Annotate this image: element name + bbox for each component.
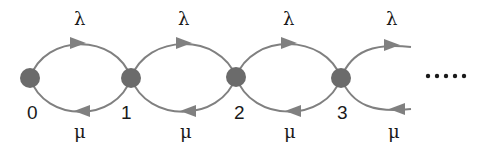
edge-0-to-1 [30,44,131,78]
state-label-3: 3 [337,102,348,123]
rate-label-lambda-3-next: λ [386,8,397,29]
state-node-0 [20,68,40,88]
arrow-left-icon [389,103,405,115]
state-label-0: 0 [27,102,38,123]
rate-label-mu-next-3: μ [388,121,400,142]
arrow-left-icon [74,105,90,117]
rate-label-lambda-2-3: λ [283,8,294,29]
ellipsis-dot [444,74,448,78]
edge-3-to-next [341,46,411,78]
forward-arrowheads [70,37,400,51]
ellipsis-dot [426,74,430,78]
rate-label-mu-2-1: μ [180,121,192,142]
arrow-right-icon [176,37,192,49]
state-nodes [20,67,351,88]
arrow-right-icon [70,37,86,49]
forward-arcs [30,44,411,78]
state-node-1 [121,68,141,88]
edge-3-to-2 [236,77,341,112]
state-node-2 [226,67,246,87]
arrow-left-icon [285,105,301,117]
edge-2-to-1 [131,77,236,112]
rate-label-mu-1-0: μ [74,121,86,142]
ellipsis-dot [462,74,466,78]
birth-death-diagram: 0 1 2 3 λ λ λ λ μ μ μ μ [0,0,494,153]
rate-label-lambda-0-1: λ [74,8,85,29]
state-node-3 [331,68,351,88]
state-label-2: 2 [234,102,245,123]
edge-2-to-3 [236,44,341,78]
rate-label-mu-3-2: μ [284,121,296,142]
arrow-left-icon [180,105,196,117]
arrow-right-icon [384,39,400,51]
ellipsis-dot [453,74,457,78]
rate-label-lambda-1-2: λ [178,8,189,29]
edge-1-to-0 [30,78,131,112]
continuation-ellipsis [426,74,466,78]
ellipsis-dot [435,74,439,78]
arrow-right-icon [281,37,297,49]
edge-1-to-2 [131,44,236,78]
state-label-1: 1 [121,102,132,123]
